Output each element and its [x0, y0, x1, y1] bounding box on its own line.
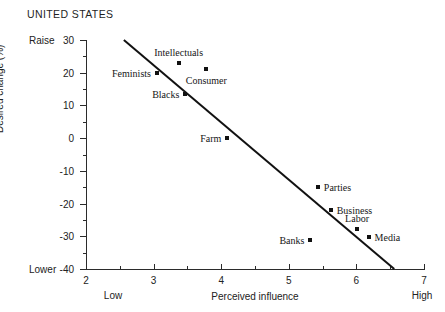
data-point-marker [308, 238, 312, 242]
y-tick-minor [83, 122, 86, 123]
x-tick-major [289, 264, 290, 269]
x-axis-title: Perceived influence [211, 291, 298, 302]
y-tick-label: 20 [63, 67, 74, 78]
data-point-label: Feminists [112, 67, 151, 78]
data-point-label: Labor [345, 213, 369, 224]
data-point-label: Media [375, 231, 401, 242]
x-tick-minor [323, 266, 324, 269]
y-axis-bottom-label: Lower [29, 264, 56, 275]
data-point-marker [155, 71, 159, 75]
x-axis-line [86, 269, 425, 270]
y-tick-minor [83, 56, 86, 57]
x-tick-major [86, 264, 87, 269]
x-tick-label: 6 [354, 275, 360, 286]
x-tick-minor [255, 266, 256, 269]
chart-figure: UNITED STATES Raise Lower Low High Desir… [0, 0, 445, 312]
y-tick-minor [83, 155, 86, 156]
x-tick-major [154, 264, 155, 269]
data-point-marker [355, 227, 359, 231]
x-tick-label: 2 [83, 275, 89, 286]
y-tick-minor [83, 89, 86, 90]
y-tick-label: -40 [60, 264, 74, 275]
y-tick-minor [83, 220, 86, 221]
data-point-label: Blacks [152, 88, 179, 99]
y-axis-top-label: Raise [29, 35, 55, 46]
data-point-label: Consumer [186, 75, 227, 86]
data-point-label: Parties [324, 182, 351, 193]
x-tick-label: 7 [421, 275, 427, 286]
y-tick-major [80, 105, 86, 106]
y-tick-label: 30 [63, 35, 74, 46]
y-tick-label: -10 [60, 165, 74, 176]
y-tick-label: -30 [60, 231, 74, 242]
x-tick-minor [187, 266, 188, 269]
y-tick-label: -20 [60, 198, 74, 209]
y-tick-major [80, 269, 86, 270]
data-point-marker [183, 92, 187, 96]
data-point-marker [367, 235, 371, 239]
data-point-label: Intellectuals [154, 47, 203, 58]
x-tick-minor [120, 266, 121, 269]
y-tick-major [80, 73, 86, 74]
x-tick-label: 3 [151, 275, 157, 286]
y-tick-major [80, 40, 86, 41]
data-point-label: Farm [200, 133, 221, 144]
x-tick-major [356, 264, 357, 269]
chart-title: UNITED STATES [27, 8, 113, 20]
data-point-marker [329, 208, 333, 212]
x-tick-major [221, 264, 222, 269]
y-tick-major [80, 171, 86, 172]
data-point-marker [177, 61, 181, 65]
y-tick-label: 10 [63, 100, 74, 111]
x-tick-minor [390, 266, 391, 269]
data-point-marker [204, 67, 208, 71]
data-point-marker [225, 136, 229, 140]
x-axis-right-label: High [412, 290, 433, 301]
y-tick-major [80, 138, 86, 139]
x-tick-label: 5 [286, 275, 292, 286]
plot-area: 3020100-10-20-30-40 234567 FeministsInte… [86, 40, 424, 269]
y-tick-major [80, 236, 86, 237]
x-tick-label: 4 [218, 275, 224, 286]
data-point-label: Banks [279, 234, 304, 245]
y-tick-minor [83, 187, 86, 188]
y-tick-major [80, 204, 86, 205]
y-tick-minor [83, 253, 86, 254]
x-tick-major [424, 264, 425, 269]
y-axis-title: Desired change (%) [0, 45, 5, 133]
y-tick-label: 0 [68, 133, 74, 144]
data-point-marker [316, 185, 320, 189]
x-axis-left-label: Low [104, 290, 122, 301]
